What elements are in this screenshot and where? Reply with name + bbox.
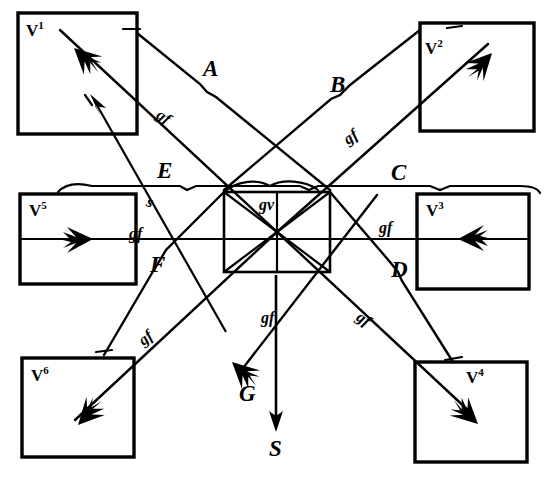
center-square [224,192,330,272]
box-label-v3: V3 [426,200,444,219]
figure-canvas: V1 V2 V5 V3 V6 V4 gv A B C D E F G S gf … [0,0,549,479]
box-label-v4: V4 [466,367,484,386]
long-pointer-arrow [90,94,226,332]
segment-label-s: S [269,437,282,460]
box-label-v1: V1 [26,20,44,39]
arrow-v1 [66,38,108,80]
arrow-v3 [458,225,492,251]
segment-label-e: E [157,159,172,182]
gf-label-7: gf [261,310,274,326]
box-label-v6: V6 [31,365,49,384]
arrow-v5 [59,227,93,253]
box-label-v2: V2 [425,38,443,57]
segment-label-b: B [330,73,345,96]
segment-label-f: F [150,253,165,276]
segment-label-c: C [391,161,406,184]
gf-label-3: gf [129,226,142,242]
gf-label-4: gf [379,220,392,236]
vector-diagram-svg [0,0,549,479]
arrow-v6 [68,391,110,433]
segment-label-g: G [239,382,256,405]
arrow-v4 [444,391,486,433]
segment-label-a: A [203,57,218,80]
s-arrow [269,275,283,432]
box-label-v5: V5 [29,200,47,219]
center-square-label: gv [259,197,274,213]
segment-label-d: D [391,258,408,281]
